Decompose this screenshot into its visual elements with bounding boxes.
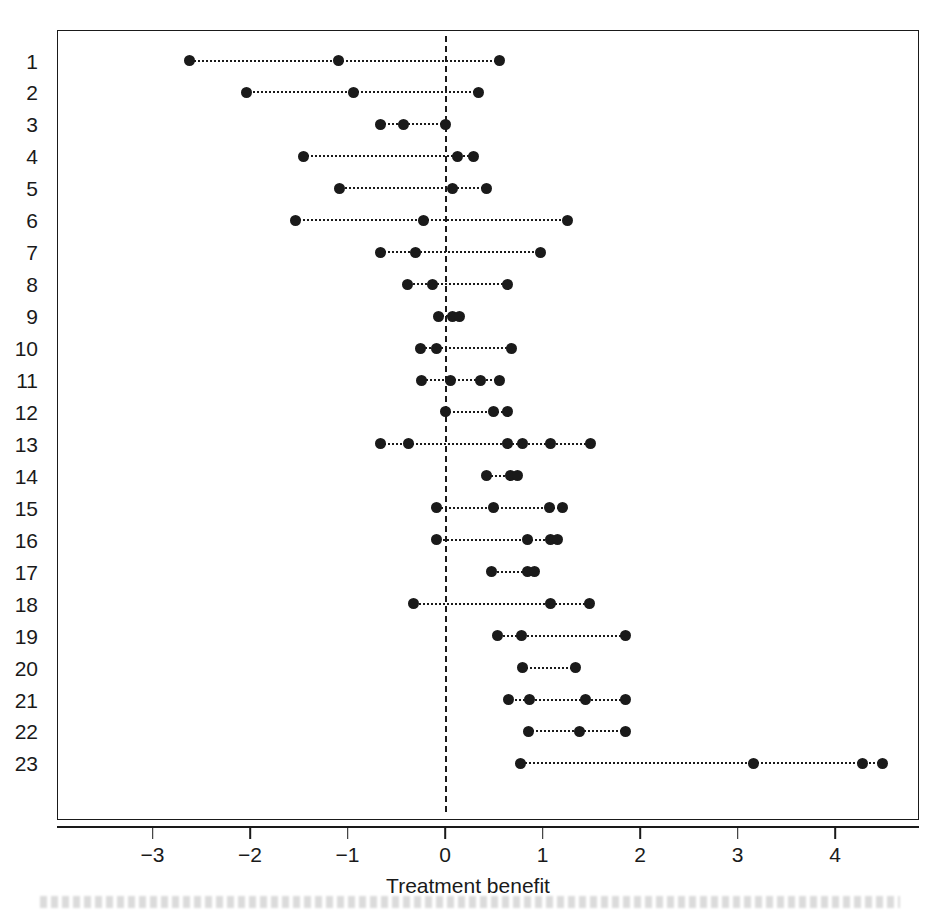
data-point-marker bbox=[502, 279, 513, 290]
y-tick-label: 18 bbox=[15, 593, 38, 614]
x-tick-label: −2 bbox=[238, 843, 262, 867]
data-point-marker bbox=[516, 630, 527, 641]
data-point-marker bbox=[494, 55, 505, 66]
data-point-marker bbox=[522, 534, 533, 545]
interval-row bbox=[57, 691, 919, 709]
data-point-marker bbox=[241, 87, 252, 98]
interval-row bbox=[57, 595, 919, 613]
data-point-marker bbox=[408, 598, 419, 609]
y-tick-label: 8 bbox=[26, 274, 38, 295]
data-point-marker bbox=[486, 566, 497, 577]
data-point-marker bbox=[298, 151, 309, 162]
data-point-marker bbox=[473, 87, 484, 98]
interval-row bbox=[57, 243, 919, 261]
interval-connector bbox=[422, 379, 500, 381]
data-point-marker bbox=[877, 758, 888, 769]
y-tick-label: 2 bbox=[26, 82, 38, 103]
x-tick-label: 4 bbox=[829, 843, 841, 867]
interval-row bbox=[57, 52, 919, 70]
data-point-marker bbox=[348, 87, 359, 98]
data-point-marker bbox=[584, 598, 595, 609]
y-tick-label: 11 bbox=[16, 370, 38, 391]
data-point-marker bbox=[445, 375, 456, 386]
interval-connector bbox=[304, 155, 474, 157]
y-tick-label: 23 bbox=[15, 753, 38, 774]
interval-connector bbox=[381, 251, 541, 253]
data-point-marker bbox=[535, 247, 546, 258]
x-tick-label: 0 bbox=[439, 843, 451, 867]
data-point-marker bbox=[562, 215, 573, 226]
x-tick-mark bbox=[737, 826, 739, 839]
data-point-marker bbox=[433, 311, 444, 322]
y-tick-label: 12 bbox=[15, 401, 38, 422]
data-point-marker bbox=[427, 279, 438, 290]
interval-row bbox=[57, 179, 919, 197]
y-tick-label: 21 bbox=[15, 689, 38, 710]
y-axis-tick-labels: 1234567891011121314151617181920212223 bbox=[0, 30, 50, 820]
data-point-marker bbox=[481, 470, 492, 481]
data-point-marker bbox=[620, 726, 631, 737]
data-point-marker bbox=[748, 758, 759, 769]
data-point-marker bbox=[544, 502, 555, 513]
data-point-marker bbox=[431, 343, 442, 354]
interval-row bbox=[57, 275, 919, 293]
data-point-marker bbox=[375, 247, 386, 258]
interval-row bbox=[57, 435, 919, 453]
interval-connector bbox=[340, 187, 487, 189]
data-point-marker bbox=[468, 151, 479, 162]
data-point-marker bbox=[503, 694, 514, 705]
y-tick-label: 3 bbox=[26, 114, 38, 135]
data-point-marker bbox=[431, 534, 442, 545]
data-point-marker bbox=[475, 375, 486, 386]
y-tick-label: 19 bbox=[15, 625, 38, 646]
data-point-marker bbox=[488, 406, 499, 417]
interval-row bbox=[57, 211, 919, 229]
data-point-marker bbox=[512, 470, 523, 481]
data-point-marker bbox=[515, 758, 526, 769]
data-point-marker bbox=[488, 502, 499, 513]
interval-row bbox=[57, 403, 919, 421]
x-tick-label: −3 bbox=[141, 843, 165, 867]
x-tick-mark bbox=[639, 826, 641, 839]
interval-row bbox=[57, 531, 919, 549]
interval-row bbox=[57, 339, 919, 357]
data-point-marker bbox=[545, 598, 556, 609]
data-point-marker bbox=[416, 375, 427, 386]
interval-connector bbox=[436, 539, 557, 541]
data-point-marker bbox=[545, 438, 556, 449]
y-tick-label: 13 bbox=[15, 433, 38, 454]
data-point-marker bbox=[857, 758, 868, 769]
y-tick-label: 15 bbox=[15, 497, 38, 518]
interval-connector bbox=[414, 603, 590, 605]
interval-connector bbox=[522, 667, 576, 669]
interval-row bbox=[57, 722, 919, 740]
data-point-marker bbox=[492, 630, 503, 641]
y-tick-label: 7 bbox=[26, 242, 38, 263]
y-tick-label: 6 bbox=[26, 210, 38, 231]
data-point-marker bbox=[375, 438, 386, 449]
data-point-marker bbox=[517, 438, 528, 449]
interval-row bbox=[57, 307, 919, 325]
x-axis-line bbox=[57, 826, 919, 828]
data-point-marker bbox=[290, 215, 301, 226]
interval-row bbox=[57, 627, 919, 645]
y-tick-label: 16 bbox=[15, 529, 38, 550]
interval-connector bbox=[408, 283, 507, 285]
data-point-marker bbox=[517, 662, 528, 673]
data-point-marker bbox=[418, 215, 429, 226]
x-tick-mark bbox=[249, 826, 251, 839]
x-tick-label: 3 bbox=[732, 843, 744, 867]
data-point-marker bbox=[375, 119, 386, 130]
y-tick-label: 17 bbox=[15, 561, 38, 582]
scan-artifact-caption-band bbox=[40, 896, 900, 908]
data-point-marker bbox=[506, 343, 517, 354]
interval-row bbox=[57, 659, 919, 677]
y-tick-label: 9 bbox=[26, 306, 38, 327]
data-point-marker bbox=[529, 566, 540, 577]
data-point-marker bbox=[184, 55, 195, 66]
x-tick-mark bbox=[347, 826, 349, 839]
data-point-marker bbox=[574, 726, 585, 737]
data-point-marker bbox=[440, 406, 451, 417]
interval-connector bbox=[246, 91, 478, 93]
interval-row bbox=[57, 371, 919, 389]
